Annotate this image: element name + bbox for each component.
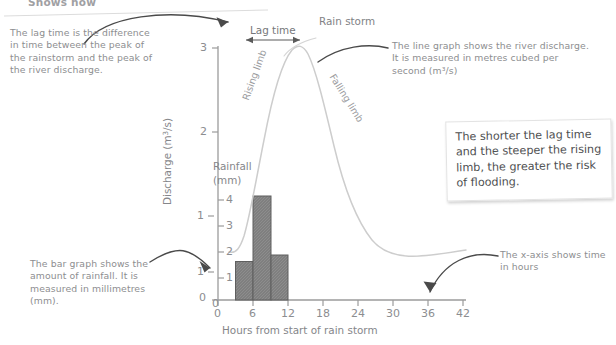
rainfall-axis-ticks [218,200,224,278]
rainfall-bars [236,196,289,300]
worksheet-canvas: Shows how [0,0,616,345]
rainfall-tick-4: 4 [226,193,233,206]
lag-time-label: Lag time [250,24,296,38]
bar-6-9 [253,196,271,300]
x-tick-6: 6 [249,307,256,320]
x-tick-18: 18 [316,307,330,320]
x-tick-30: 30 [386,307,400,320]
note-lag-time: The lag time is the difference in time b… [10,27,160,76]
bar-9-12 [271,255,288,300]
y-axis-label-discharge: Discharge (m3/s) [161,118,175,205]
callout-card-flood-risk: The shorter the lag time and the steeper… [445,118,613,201]
y-axis-label-rainfall: Rainfall (mm) [213,160,252,187]
discharge-tick-1: 1 [197,209,204,222]
note-line-graph: The line graph shows the river discharge… [392,40,592,77]
note-x-axis: The x-axis shows time in hours [500,249,610,274]
discharge-tick-3: 3 [200,41,207,54]
discharge-tick-2: 2 [200,125,207,138]
note-bar-graph: The bar graph shows the amount of rainfa… [30,258,165,307]
discharge-tick-1b: 1 [197,265,204,278]
bar-3-6 [236,262,254,301]
x-tick-12: 12 [281,307,295,320]
rainfall-tick-3: 3 [226,219,233,232]
callout-card-text: The shorter the lag time and the steeper… [455,127,603,192]
x-tick-24: 24 [351,307,365,320]
x-tick-42: 42 [456,307,470,320]
discharge-tick-0: 0 [199,291,206,304]
x-tick-0: 0 [214,307,221,320]
rain-storm-label: Rain storm [319,15,375,29]
x-axis-label: Hours from start of rain storm [222,324,378,338]
x-tick-36: 36 [421,307,435,320]
rainfall-tick-1: 1 [226,271,233,284]
x-axis-ticks [218,300,463,306]
rainfall-tick-2: 2 [226,245,233,258]
